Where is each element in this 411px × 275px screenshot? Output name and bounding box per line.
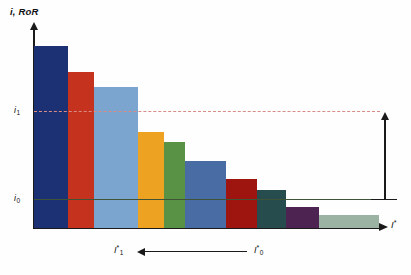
budget-shift-arrow-shaft [145,251,247,252]
istar1-label-sub: 1 [120,249,124,256]
bar-7 [226,179,257,228]
capital-budgeting-chart: i, RoR I* i1 i0 I*1 I*0 [0,0,411,275]
i0-label-sub: 0 [17,197,21,204]
i1-label-base: i [14,105,16,115]
x-axis-label: I* [391,219,396,230]
bar-1 [34,46,68,228]
bar-10 [319,215,379,228]
istar1-label: I*1 [114,245,123,255]
bar-6 [185,161,226,228]
bar-2 [68,72,94,228]
i1-axis-tick-label: i1 [14,105,20,115]
bar-3 [94,87,138,228]
rate-gap-arrow-up-icon [381,112,389,120]
y-axis-label: i, RoR [10,6,39,17]
i1-label-sub: 1 [17,109,21,116]
budget-shift-arrow-left-icon [137,248,145,256]
bar-9 [286,207,319,228]
istar0-label-star: * [257,244,260,251]
x-axis-arrow-icon [379,223,388,231]
bar-5 [164,142,185,228]
rate-gap-arrow-base [371,199,397,200]
bar-4 [138,132,164,228]
i0-reference-line [34,199,380,200]
x-axis-label-star: * [394,219,397,226]
y-axis-arrow-icon [30,22,38,30]
i0-axis-tick-label: i0 [14,193,20,203]
istar1-label-star: * [117,244,120,251]
istar0-label: I*0 [254,245,263,255]
istar0-label-sub: 0 [260,249,264,256]
rate-gap-arrow-shaft [384,117,386,199]
i0-label-base: i [14,193,16,203]
i1-reference-line [34,111,380,112]
bar-8 [257,190,286,228]
